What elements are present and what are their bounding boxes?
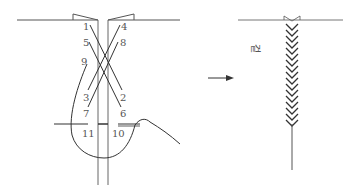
step-label: 10 [112,128,125,139]
step-label: 9 [81,56,87,67]
step-label: 8 [120,37,126,48]
step-label: 11 [82,128,95,139]
step-label: 7 [83,108,89,119]
step-label: 4 [121,21,127,32]
stitch-1-2 [90,25,122,90]
stitch-4-3 [88,25,120,90]
step-label: 6 [120,108,126,119]
step-label: 1 [83,21,89,32]
diagram-canvas: 1458932761110 겉 [0,0,354,191]
step-label: 3 [83,92,89,103]
stitch-5-6 [89,42,121,107]
right-flap [108,14,134,20]
step-label: 5 [83,37,89,48]
step-label: 2 [120,92,126,103]
herringbone-braid [286,24,298,126]
arrow-right-icon [208,75,234,81]
right-diagram [238,16,343,170]
step-labels: 1458932761110 [81,21,127,139]
left-diagram [17,14,180,185]
left-flap [73,14,98,20]
outside-label: 겉 [250,44,261,53]
